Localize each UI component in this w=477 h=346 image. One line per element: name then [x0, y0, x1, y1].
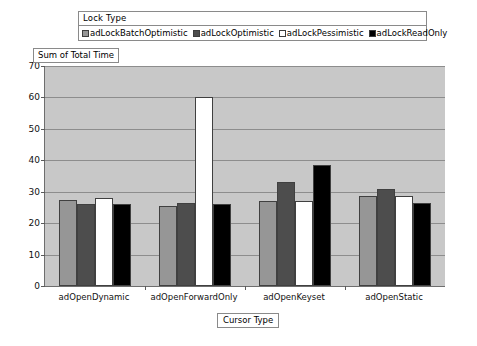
bar [359, 196, 377, 286]
bar [213, 204, 231, 286]
bar [59, 200, 77, 286]
legend-swatch-icon [369, 30, 376, 37]
y-axis-tick-label: 60 [10, 93, 40, 102]
bar [259, 201, 277, 286]
legend-entry: adLockBatchOptimistic [82, 28, 188, 38]
y-axis-tick-label: 30 [10, 188, 40, 197]
legend-entry: adLockReadOnly [369, 28, 448, 38]
bar [377, 189, 395, 286]
bar [77, 204, 95, 286]
plot-area [44, 66, 445, 287]
x-axis-tick [345, 286, 346, 290]
bar [177, 203, 195, 286]
x-axis-category-label: adOpenKeyset [244, 292, 344, 302]
x-axis-category-label: adOpenForwardOnly [144, 292, 244, 302]
bar-group [45, 66, 145, 286]
legend-entry-label: adLockOptimistic [201, 28, 274, 38]
legend-entries: adLockBatchOptimisticadLockOptimisticadL… [79, 26, 426, 40]
bar [395, 196, 413, 286]
x-axis-title: Cursor Type [217, 313, 279, 328]
y-axis-tick-label: 70 [10, 62, 40, 71]
bar [295, 201, 313, 286]
legend-swatch-icon [193, 30, 200, 37]
legend-title: Lock Type [79, 12, 426, 26]
chart-legend: Lock Type adLockBatchOptimisticadLockOpt… [78, 11, 427, 41]
legend-swatch-icon [82, 30, 89, 37]
legend-entry-label: adLockPessimistic [287, 28, 364, 38]
bar [413, 203, 431, 286]
y-axis-tick-label: 40 [10, 156, 40, 165]
y-axis-tick-label: 20 [10, 219, 40, 228]
legend-entry-label: adLockBatchOptimistic [90, 28, 188, 38]
bar-group [345, 66, 445, 286]
x-axis-category-label: adOpenStatic [344, 292, 444, 302]
y-axis-tick-labels: 010203040506070 [6, 66, 40, 287]
bar [113, 204, 131, 286]
bar-group [245, 66, 345, 286]
legend-entry-label: adLockReadOnly [377, 28, 448, 38]
y-axis-tick [41, 286, 45, 287]
legend-entry: adLockOptimistic [193, 28, 274, 38]
bar [313, 165, 331, 286]
x-axis-tick [145, 286, 146, 290]
y-axis-tick-label: 0 [10, 282, 40, 291]
bar [95, 198, 113, 286]
y-axis-tick-label: 10 [10, 251, 40, 260]
bar [195, 97, 213, 286]
bar [277, 182, 295, 286]
bar-groups [45, 66, 445, 286]
bar [159, 206, 177, 286]
legend-entry: adLockPessimistic [279, 28, 364, 38]
bar-group [145, 66, 245, 286]
x-axis-tick [245, 286, 246, 290]
y-axis-tick-label: 50 [10, 125, 40, 134]
y-axis-title: Sum of Total Time [33, 48, 119, 63]
legend-swatch-icon [279, 30, 286, 37]
x-axis-category-label: adOpenDynamic [44, 292, 144, 302]
